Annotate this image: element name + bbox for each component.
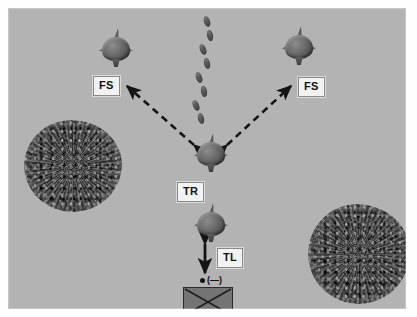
diagram-panel: FS FS TR TL (—) [8,8,406,309]
label-tr: TR [177,182,204,202]
molecule-tl [194,204,228,242]
molecule-foot [206,164,216,172]
minus-marker: (—) [200,276,222,285]
marker-dot [200,278,205,283]
molecule-fs-right [282,27,316,65]
molecule-body [196,141,225,166]
molecule-foot [206,234,216,242]
crossed-box [183,287,233,309]
molecule-body [196,211,225,236]
molecule-body [284,34,313,59]
label-fs-right: FS [298,77,325,97]
molecule-tr [194,134,228,172]
minus-label: (—) [207,276,222,285]
label-tl: TL [217,248,243,268]
molecule-body [101,36,130,61]
dashed-arrow-right [227,86,291,145]
label-fs-left: FS [93,76,120,96]
crossed-box-x-icon [184,288,232,309]
dashed-arrow-left [127,86,194,145]
figure-root: FS FS TR TL (—) [0,0,417,317]
molecule-fs-left [99,29,133,67]
